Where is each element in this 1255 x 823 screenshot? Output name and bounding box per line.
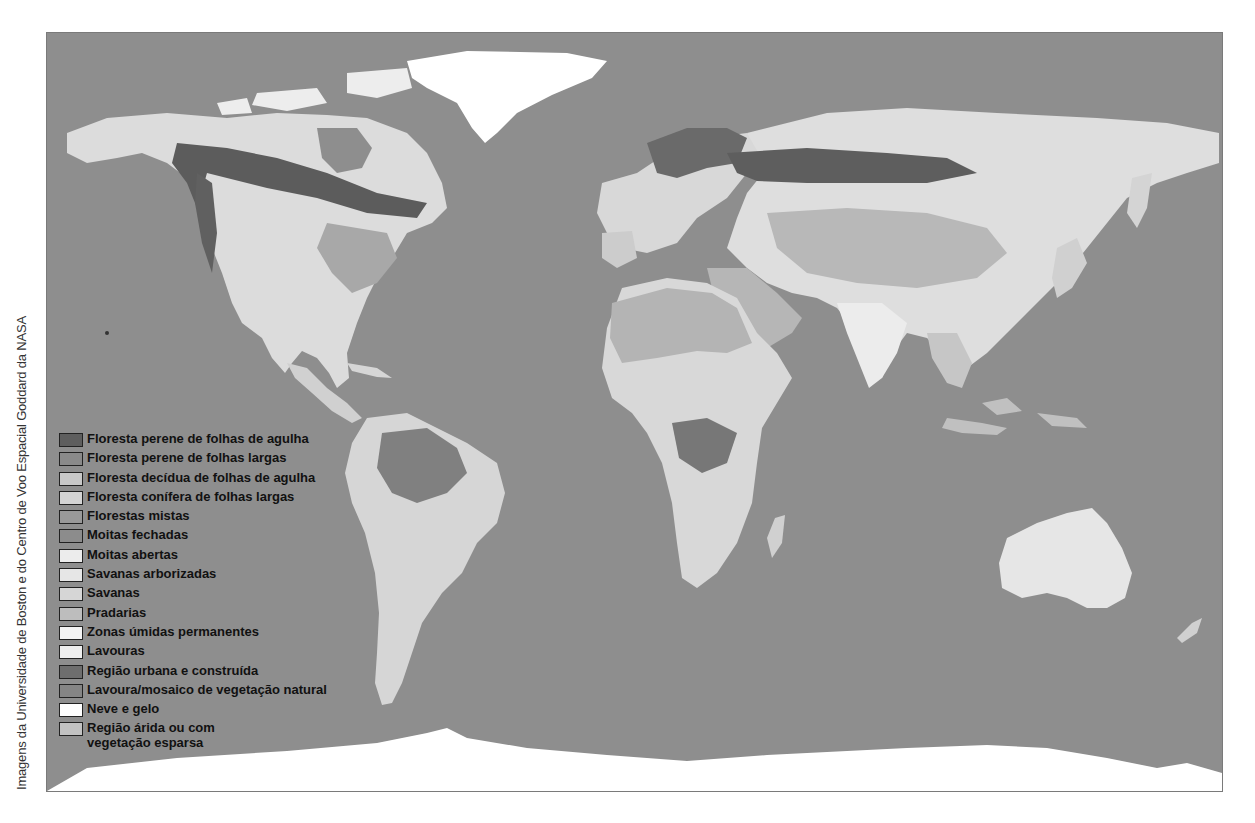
legend-item: Neve e gelo [59,701,327,720]
legend-label: Pradarias [87,605,146,620]
hawaii [105,331,109,335]
map-legend: Floresta perene de folhas de agulha Flor… [59,431,327,754]
arctic-islands [217,68,412,115]
legend-swatch [59,703,83,717]
madagascar [767,515,785,558]
new-zealand [1177,618,1202,643]
legend-swatch [59,626,83,640]
legend-item: Lavoura/mosaico de vegetação natural [59,682,327,701]
legend-swatch [59,510,83,524]
legend-label: Moitas abertas [87,547,178,562]
legend-swatch [59,491,83,505]
image-credit: Imagens da Universidade de Boston e do C… [14,30,29,790]
legend-swatch [59,452,83,466]
legend-label: Savanas arborizadas [87,566,216,581]
legend-label: Floresta decídua de folhas de agulha [87,470,315,485]
legend-label: Floresta conífera de folhas largas [87,489,294,504]
legend-swatch [59,587,83,601]
legend-label: Neve e gelo [87,701,159,716]
legend-item: Florestas mistas [59,508,327,527]
legend-swatch [59,529,83,543]
legend-item: Floresta conífera de folhas largas [59,489,327,508]
legend-swatch [59,433,83,447]
legend-swatch [59,665,83,679]
legend-swatch [59,607,83,621]
legend-label: Região árida ou com vegetação esparsa [87,720,277,750]
legend-label: Florestas mistas [87,508,190,523]
legend-swatch [59,472,83,486]
legend-label: Floresta perene de folhas de agulha [87,431,309,446]
legend-item: Moitas abertas [59,547,327,566]
legend-item: Moitas fechadas [59,527,327,546]
legend-item: Savanas arborizadas [59,566,327,585]
legend-item: Savanas [59,585,327,604]
legend-label: Floresta perene de folhas largas [87,450,286,465]
cuba [347,363,392,378]
legend-item: Floresta perene de folhas de agulha [59,431,327,450]
legend-label: Zonas úmidas permanentes [87,624,259,639]
legend-swatch [59,568,83,582]
legend-swatch [59,684,83,698]
legend-item: Região árida ou com vegetação esparsa [59,720,327,754]
legend-item: Região urbana e construída [59,663,327,682]
legend-item: Floresta decídua de folhas de agulha [59,470,327,489]
india [837,303,907,388]
legend-item: Zonas úmidas permanentes [59,624,327,643]
legend-swatch [59,549,83,563]
legend-item: Floresta perene de folhas largas [59,450,327,469]
legend-label: Região urbana e construída [87,663,258,678]
legend-label: Lavoura/mosaico de vegetação natural [87,682,327,697]
world-land-cover-map: Floresta perene de folhas de agulha Flor… [46,32,1223,792]
indonesia [942,398,1087,435]
legend-item: Pradarias [59,605,327,624]
greenland [407,51,607,143]
central-america [287,363,362,423]
australia [999,508,1132,608]
legend-item: Lavouras [59,643,327,662]
legend-swatch [59,645,83,659]
legend-label: Savanas [87,585,140,600]
iberia [602,231,637,268]
legend-label: Moitas fechadas [87,527,188,542]
legend-label: Lavouras [87,643,145,658]
legend-swatch [59,722,83,736]
